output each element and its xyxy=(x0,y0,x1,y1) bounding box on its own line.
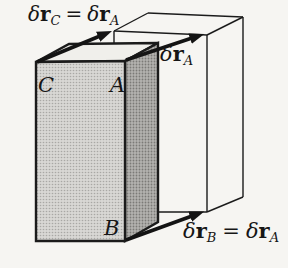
vertex-label-a: A xyxy=(108,73,125,97)
diagram-canvas: C A B δrC=δrA δrA δrB=δrA xyxy=(0,0,288,268)
solid-box-side-face xyxy=(125,43,158,241)
vertex-label-c: C xyxy=(38,73,54,97)
vertex-label-b: B xyxy=(103,216,119,240)
label-drb-equals-dra: δrB=δrA xyxy=(183,218,279,245)
solid-box xyxy=(36,43,158,241)
label-drc-equals-dra: δrC=δrA xyxy=(28,2,119,28)
translation-diagram: C A B δrC=δrA δrA δrB=δrA xyxy=(0,0,288,268)
